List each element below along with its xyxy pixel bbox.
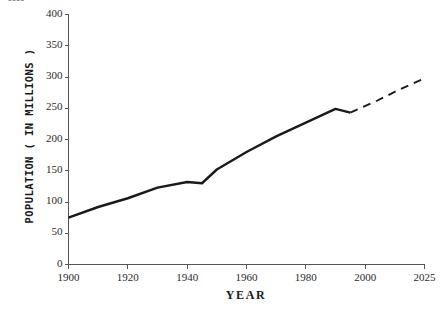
- y-axis-title: POPULATION ( IN MILLIONS ): [23, 21, 35, 251]
- chart-canvas: [0, 0, 446, 311]
- observed-population-line: [69, 109, 351, 218]
- x-tick-marks: [69, 265, 425, 269]
- x-tick-label: 1960: [217, 271, 277, 283]
- x-axis-title: YEAR: [68, 288, 424, 303]
- data-series-group: [69, 78, 425, 217]
- projected-population-line: [350, 78, 424, 112]
- y-tick-label: 0: [23, 257, 63, 269]
- x-tick-label: 2000: [335, 271, 395, 283]
- population-line-chart: ---- 050100150200250300350400 1900192019…: [0, 0, 446, 311]
- y-tick-label: 400: [23, 7, 63, 19]
- x-tick-label: 1920: [98, 271, 158, 283]
- x-tick-label: 1900: [39, 271, 99, 283]
- x-tick-label: 2025: [395, 271, 446, 283]
- y-tick-marks: [65, 15, 69, 265]
- x-tick-label: 1940: [157, 271, 217, 283]
- axes-group: [69, 15, 425, 265]
- x-tick-label: 1980: [276, 271, 336, 283]
